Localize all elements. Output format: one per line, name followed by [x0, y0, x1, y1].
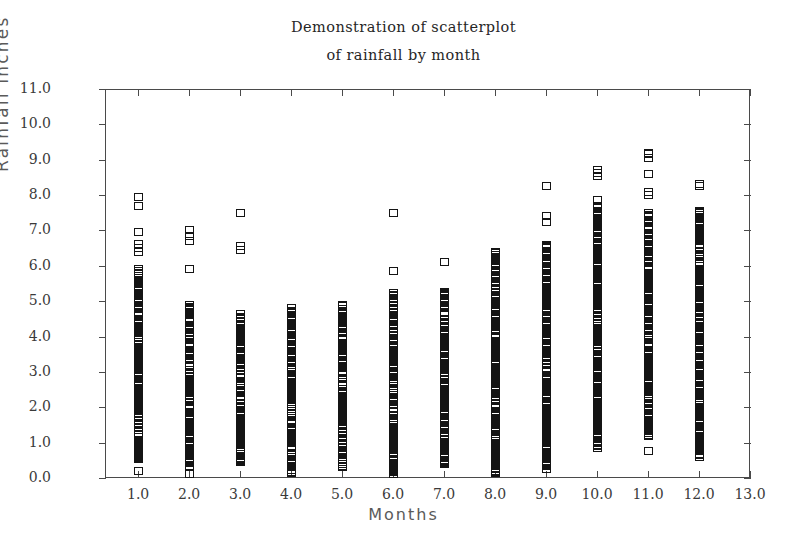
data-point [389, 437, 398, 445]
data-point [389, 346, 398, 354]
data-point [338, 378, 347, 386]
data-point [644, 149, 653, 157]
data-point [593, 358, 602, 366]
data-point [593, 383, 602, 391]
y-tick-label: 11.0 [0, 80, 51, 96]
data-point [644, 229, 653, 237]
data-point [440, 372, 449, 380]
data-point [491, 372, 500, 380]
data-point [287, 373, 296, 381]
data-point [389, 421, 398, 429]
data-point [593, 438, 602, 446]
data-point [695, 248, 704, 256]
data-point [644, 264, 653, 272]
plot-area [105, 89, 750, 478]
data-point [134, 240, 143, 248]
data-point [236, 315, 245, 323]
data-point [440, 406, 449, 414]
data-point [134, 467, 143, 475]
y-tick-label: 9.0 [0, 151, 51, 167]
data-point [338, 307, 347, 315]
data-point [440, 303, 449, 311]
data-point [134, 454, 143, 462]
data-point [185, 323, 194, 331]
data-point [185, 343, 194, 351]
data-point [593, 426, 602, 434]
data-point [389, 209, 398, 217]
data-point [440, 450, 449, 458]
data-point [491, 323, 500, 331]
data-point [695, 273, 704, 281]
data-point [389, 267, 398, 275]
data-point [695, 320, 704, 328]
scatterplot-figure: Demonstration of scatterplot of rainfall… [0, 0, 807, 550]
data-point [185, 419, 194, 427]
data-point [287, 391, 296, 399]
data-point [236, 334, 245, 342]
data-point [491, 400, 500, 408]
data-point [338, 443, 347, 451]
data-point [236, 379, 245, 387]
data-point [389, 386, 398, 394]
data-point [134, 369, 143, 377]
data-point [491, 468, 500, 476]
data-point [542, 305, 551, 313]
data-point [287, 432, 296, 440]
data-point [593, 281, 602, 289]
data-point [695, 435, 704, 443]
data-point [593, 244, 602, 252]
x-tick-mark-top [750, 89, 751, 96]
data-point [593, 166, 602, 174]
data-point [236, 326, 245, 334]
data-point [236, 408, 245, 416]
data-point [644, 243, 653, 251]
data-point [491, 300, 500, 308]
data-point [134, 202, 143, 210]
data-point [542, 451, 551, 459]
data-point [287, 462, 296, 470]
data-point [593, 258, 602, 266]
data-point [644, 407, 653, 415]
data-point [644, 272, 653, 280]
x-tick-mark [750, 471, 751, 478]
data-point [440, 352, 449, 360]
x-axis-title: Months [0, 505, 807, 524]
chart-title-line-2: of rainfall by month [0, 47, 807, 63]
data-point [542, 267, 551, 275]
data-point [491, 256, 500, 264]
data-point [185, 359, 194, 367]
data-point [542, 249, 551, 257]
data-point [542, 294, 551, 302]
data-point [695, 211, 704, 219]
data-point [185, 470, 194, 478]
data-point [338, 425, 347, 433]
data-point [644, 426, 653, 434]
data-point [695, 180, 704, 188]
data-point [542, 281, 551, 289]
data-point [236, 422, 245, 430]
data-point [134, 311, 143, 319]
data-point [134, 193, 143, 201]
data-point [185, 333, 194, 341]
data-point [593, 412, 602, 420]
data-point [389, 378, 398, 386]
y-tick-label: 4.0 [0, 328, 51, 344]
data-point [593, 232, 602, 240]
data-point [287, 416, 296, 424]
y-tick-mark [99, 478, 106, 479]
data-point [440, 415, 449, 423]
data-point [542, 393, 551, 401]
data-point [491, 384, 500, 392]
data-point [644, 370, 653, 378]
data-point [134, 437, 143, 445]
data-point [389, 460, 398, 468]
data-point [389, 448, 398, 456]
data-point [542, 347, 551, 355]
data-point [185, 389, 194, 397]
data-point [644, 397, 653, 405]
data-point [236, 242, 245, 250]
data-point [185, 265, 194, 273]
data-point [287, 307, 296, 315]
data-point [695, 335, 704, 343]
y-tick-label: 2.0 [0, 398, 51, 414]
